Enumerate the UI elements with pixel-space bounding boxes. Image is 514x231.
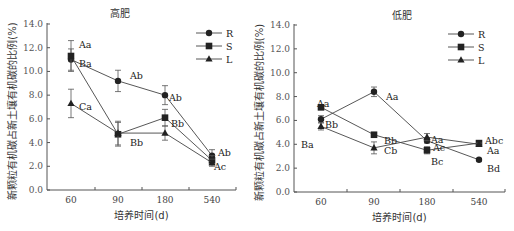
- circle-marker: [371, 89, 377, 95]
- y-tick-label: 10.0: [270, 68, 290, 78]
- x-tick-label: 90: [368, 197, 380, 207]
- significance-label: Bb: [171, 118, 184, 129]
- legend: RSL: [448, 29, 486, 66]
- series-S: [318, 104, 483, 154]
- x-tick-label: 90: [112, 195, 124, 205]
- legend-label: L: [226, 54, 233, 65]
- x-tick-label: 540: [470, 197, 487, 207]
- significance-label: Ac: [213, 161, 226, 172]
- significance-label: Bb: [325, 119, 338, 130]
- y-tick-label: 12.0: [270, 44, 290, 54]
- triangle-marker: [205, 55, 212, 61]
- significance-label: Bd: [487, 163, 500, 174]
- significance-label: Aa: [316, 98, 330, 109]
- y-tick-label: 8.0: [29, 90, 44, 100]
- significance-label: Aa: [78, 39, 92, 50]
- square-marker: [424, 147, 431, 154]
- triangle-marker: [457, 56, 464, 62]
- square-marker: [206, 43, 213, 50]
- x-tick-label: 60: [65, 195, 77, 205]
- y-tick-label: 10.0: [23, 66, 43, 76]
- x-tick-label: 60: [315, 197, 327, 207]
- square-marker: [162, 114, 169, 121]
- triangle-marker: [317, 123, 324, 129]
- y-tick-label: 12.0: [23, 43, 43, 53]
- y-tick-label: 14.0: [270, 20, 290, 30]
- triangle-marker: [423, 133, 430, 139]
- chart-panel-low-fertilizer: 低肥0.02.04.06.08.010.012.014.06090180540培…: [253, 9, 505, 223]
- y-tick-label: 8.0: [276, 92, 291, 102]
- y-tick-label: 0.0: [276, 187, 291, 197]
- y-tick-label: 2.0: [276, 163, 291, 173]
- legend: RSL: [196, 28, 234, 65]
- chart-panel-high-fertilizer: 高肥0.02.04.06.08.010.012.014.06090180540培…: [6, 7, 236, 221]
- y-axis-title: 新颗粒有机碳占新土壤有机碳的比例(%): [6, 22, 18, 199]
- significance-label: Ab: [168, 92, 182, 103]
- legend-label: R: [478, 29, 486, 40]
- square-marker: [458, 44, 465, 51]
- significance-label: Bb: [384, 135, 397, 146]
- triangle-marker: [67, 100, 74, 106]
- significance-label: Ac: [432, 142, 445, 153]
- significance-label: Aa: [385, 91, 399, 102]
- significance-label: Bc: [431, 156, 443, 167]
- series-L: [317, 123, 482, 154]
- square-marker: [68, 53, 75, 60]
- y-axis-title: 新颗粒有机碳占新土壤有机碳的比例(%): [253, 24, 265, 201]
- x-tick-label: 180: [418, 197, 435, 207]
- circle-marker: [318, 116, 324, 122]
- y-tick-label: 4.0: [29, 138, 44, 148]
- y-tick-label: 0.0: [29, 185, 44, 195]
- y-tick-label: 2.0: [29, 161, 44, 171]
- significance-label: Ab: [129, 70, 143, 81]
- chart-title: 高肥: [110, 7, 130, 19]
- triangle-marker: [161, 129, 168, 135]
- circle-marker: [115, 78, 121, 84]
- significance-label: Ba: [301, 139, 314, 150]
- x-axis-title: 培养时间(d): [372, 211, 426, 223]
- square-marker: [371, 131, 378, 138]
- significance-label: Abc: [484, 135, 503, 146]
- significance-label: Ba: [79, 58, 92, 69]
- series-R: [318, 87, 482, 163]
- legend-label: L: [478, 55, 485, 66]
- circle-marker: [458, 31, 464, 37]
- significance-label: Aa: [486, 145, 500, 156]
- significance-label: Bb: [130, 137, 143, 148]
- significance-label: Cb: [384, 145, 397, 156]
- legend-label: S: [226, 41, 233, 52]
- y-tick-label: 6.0: [276, 115, 291, 125]
- circle-marker: [206, 30, 212, 36]
- significance-label: Ca: [79, 101, 92, 112]
- y-tick-label: 6.0: [29, 114, 44, 124]
- x-tick-label: 540: [203, 195, 220, 205]
- x-axis-title: 培养时间(d): [114, 209, 168, 221]
- legend-label: R: [226, 28, 234, 39]
- x-tick-label: 180: [156, 195, 173, 205]
- significance-label: Ab: [217, 147, 231, 158]
- circle-marker: [162, 92, 168, 98]
- circle-marker: [476, 157, 482, 163]
- y-tick-label: 4.0: [276, 139, 291, 149]
- chart-title: 低肥: [392, 9, 412, 21]
- legend-label: S: [478, 42, 485, 53]
- figure: 高肥0.02.04.06.08.010.012.014.06090180540培…: [0, 0, 514, 231]
- y-tick-label: 14.0: [23, 19, 43, 29]
